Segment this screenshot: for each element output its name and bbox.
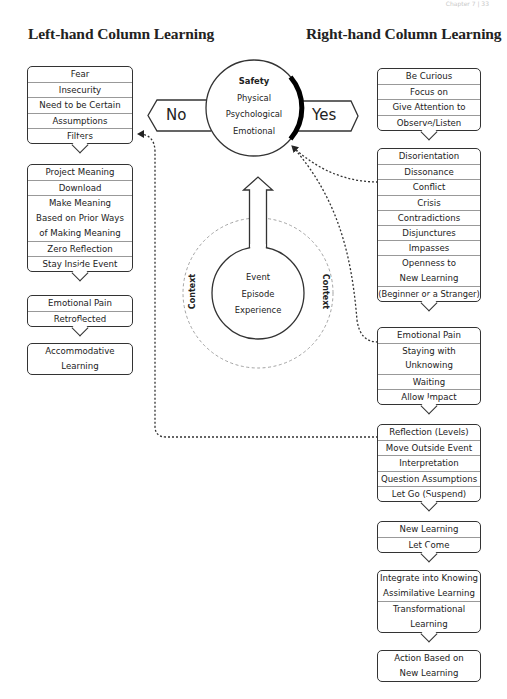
box-row: Impasses [378, 240, 480, 255]
right-box-action: Action Based on New Learning [377, 650, 481, 682]
box-row: Staying with [378, 343, 480, 358]
box-row: Insecurity [28, 82, 132, 97]
box-row: Integrate into Knowing [378, 571, 480, 586]
box-row: Download [28, 180, 132, 195]
box-row: Transformational [378, 601, 480, 616]
context-label-left: Context [188, 274, 197, 309]
box-row: Interpretation [378, 455, 480, 470]
box-row: Zero Reflection [28, 241, 132, 256]
box-row: Move Outside Event [378, 440, 480, 455]
box-row: New Learning [378, 271, 480, 286]
box-row: Emotional Pain [28, 296, 132, 311]
right-box-disorientation: Disorientation Dissonance Conflict Crisi… [377, 148, 481, 302]
box-row: Accommodative [28, 344, 132, 359]
left-box-accommodative-learning: Accommodative Learning [27, 343, 133, 375]
left-box-project-meaning: Project Meaning Download Make Meaning Ba… [27, 164, 133, 272]
box-row: Assumptions [28, 113, 132, 128]
left-box-fear: Fear Insecurity Need to be Certain Assum… [27, 66, 133, 144]
box-row: Emotional Pain [378, 328, 480, 343]
event-item: Experience [218, 302, 298, 319]
box-row: Learning [28, 359, 132, 374]
box-row: Be Curious [378, 69, 480, 84]
safety-item: Emotional [214, 123, 294, 140]
safety-title: Safety [214, 73, 294, 90]
box-row: Question Assumptions [378, 471, 480, 486]
right-box-be-curious: Be Curious Focus on Give Attention to Ob… [377, 68, 481, 131]
box-row: Assimilative Learning [378, 586, 480, 601]
box-row: Conflict [378, 179, 480, 194]
box-row: Based on Prior Ways [28, 211, 132, 226]
dotted-connector-dissonance-to-safety [292, 146, 378, 182]
box-row: Give Attention to [378, 99, 480, 114]
box-row: New Learning [378, 522, 480, 537]
box-row: Contradictions [378, 210, 480, 225]
box-row: Project Meaning [28, 165, 132, 180]
event-item: Episode [218, 286, 298, 303]
box-row: Fear [28, 67, 132, 82]
box-row: Crisis [378, 195, 480, 210]
box-row: Disjunctures [378, 225, 480, 240]
box-row: Unknowing [378, 358, 480, 373]
box-row: Waiting [378, 374, 480, 389]
safety-item: Physical [214, 90, 294, 107]
left-box-emotional-pain: Emotional Pain Retroflected [27, 295, 133, 327]
box-row: Need to be Certain [28, 97, 132, 112]
box-row: Action Based on [378, 651, 480, 666]
no-label: No [166, 106, 186, 124]
yes-label: Yes [312, 106, 336, 124]
box-row: Openness to [378, 255, 480, 270]
right-box-emotional-pain: Emotional Pain Staying with Unknowing Wa… [377, 327, 481, 405]
safety-item: Psychological [214, 106, 294, 123]
context-label-right: Context [321, 274, 330, 309]
box-row: Disorientation [378, 149, 480, 164]
box-row: New Learning [378, 666, 480, 681]
up-arrow [244, 177, 273, 248]
right-box-reflection: Reflection (Levels) Move Outside Event I… [377, 424, 481, 502]
box-row: Make Meaning [28, 195, 132, 210]
right-box-integrate: Integrate into Knowing Assimilative Lear… [377, 570, 481, 633]
right-box-new-learning: New Learning Let Come [377, 521, 481, 553]
box-row: Focus on [378, 84, 480, 99]
box-row: of Making Meaning [28, 226, 132, 241]
event-item: Event [218, 269, 298, 286]
event-text: Event Episode Experience [218, 269, 298, 319]
box-row: Dissonance [378, 164, 480, 179]
box-row: Reflection (Levels) [378, 425, 480, 440]
safety-text: Safety Physical Psychological Emotional [214, 73, 294, 139]
dotted-connector-emotional-pain-to-safety [292, 146, 378, 342]
